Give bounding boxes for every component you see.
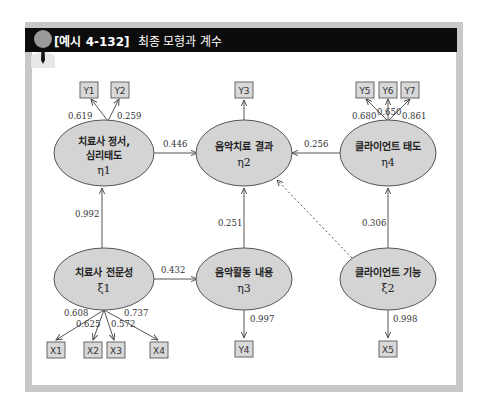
- coef-eta3-eta2: 0.251: [218, 218, 242, 228]
- svg-text:음악활동 내용: 음악활동 내용: [215, 266, 272, 278]
- svg-text:η1: η1: [97, 164, 111, 177]
- svg-text:클라이언트 태도: 클라이언트 태도: [355, 140, 421, 152]
- coef-eta3-y4: 0.997: [250, 314, 274, 324]
- indicator-x4: X4: [153, 346, 165, 356]
- sem-path-diagram: 치료사 정서, 심리태도 η1 음악치료 결과 η2 클라이언트 태도 η4 치…: [0, 0, 488, 416]
- svg-text:심리태도: 심리태도: [86, 149, 122, 161]
- indicator-y2: Y2: [113, 86, 125, 96]
- coef-xi1-x3: 0.572: [111, 319, 135, 329]
- svg-text:ξ2: ξ2: [381, 282, 394, 295]
- coef-eta1-y1: 0.619: [68, 111, 92, 121]
- coef-eta4-y7: 0.861: [402, 111, 426, 121]
- svg-text:η4: η4: [381, 156, 395, 169]
- indicator-y6: Y6: [381, 86, 393, 96]
- latent-node-eta3: 음악활동 내용 η3: [196, 248, 292, 310]
- svg-text:음악치료 결과: 음악치료 결과: [215, 140, 273, 152]
- indicator-y4: Y4: [237, 345, 249, 355]
- latent-node-xi1: 치료사 전문성 ξ1: [54, 248, 154, 310]
- indicator-y5: Y5: [358, 86, 370, 96]
- indicator-x1: X1: [50, 346, 62, 356]
- coef-xi1-x1: 0.608: [64, 308, 88, 318]
- coef-xi1-eta1: 0.992: [75, 209, 99, 219]
- latent-node-eta4: 클라이언트 태도 η4: [340, 120, 436, 186]
- latent-node-xi2: 클라이언트 기능 ξ2: [340, 248, 436, 310]
- svg-text:치료사 정서,: 치료사 정서,: [78, 135, 130, 147]
- coef-eta1-y2: 0.259: [117, 111, 141, 121]
- indicator-x2: X2: [87, 346, 99, 356]
- indicator-x3: X3: [110, 346, 122, 356]
- svg-text:η3: η3: [237, 282, 251, 295]
- coef-eta4-y6: 0.650: [377, 107, 401, 117]
- latent-node-eta2: 음악치료 결과 η2: [196, 120, 292, 186]
- coef-eta1-eta2: 0.446: [163, 139, 187, 149]
- svg-text:η2: η2: [237, 156, 251, 169]
- svg-text:ξ1: ξ1: [97, 282, 110, 295]
- latent-node-eta1: 치료사 정서, 심리태도 η1: [54, 120, 154, 186]
- indicator-y3: Y3: [237, 86, 249, 96]
- coef-xi2-x5: 0.998: [393, 314, 417, 324]
- svg-text:치료사 전문성: 치료사 전문성: [75, 266, 132, 278]
- coef-xi1-eta3: 0.432: [161, 265, 185, 275]
- coef-xi1-x2: 0.625: [76, 319, 100, 329]
- indicator-x5: X5: [382, 345, 394, 355]
- coef-eta4-y5: 0.680: [352, 111, 376, 121]
- coef-eta4-eta2: 0.256: [304, 139, 328, 149]
- indicator-y7: Y7: [403, 86, 415, 96]
- coef-xi2-eta4: 0.306: [362, 218, 386, 228]
- indicator-y1: Y1: [82, 86, 94, 96]
- svg-text:클라이언트 기능: 클라이언트 기능: [355, 266, 421, 278]
- coef-xi1-x4: 0.737: [124, 308, 148, 318]
